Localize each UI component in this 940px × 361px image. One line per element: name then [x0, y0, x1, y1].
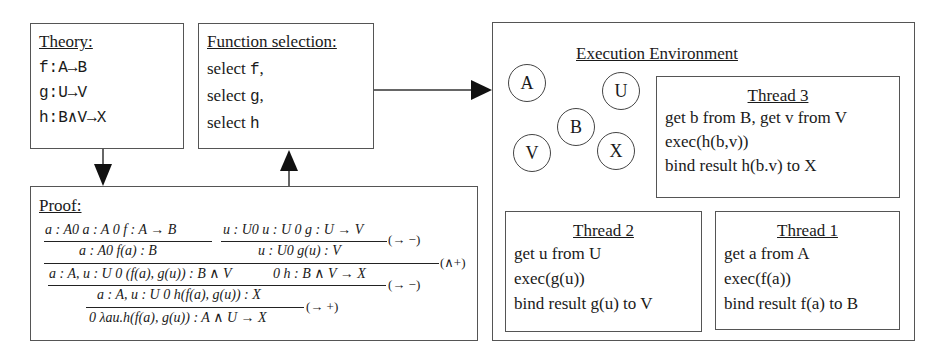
proof-bar [221, 241, 387, 242]
node-v: V [513, 134, 551, 172]
proof-title: Proof: [39, 196, 82, 216]
node-a: A [508, 64, 546, 102]
proof-step3-conclusion: a : A, u : U 0 h(f(a), g(u)) : X [97, 287, 261, 303]
thread-3-line: exec(h(b,v)) [665, 130, 899, 154]
separator: , [260, 86, 264, 105]
select-label: select [207, 113, 250, 132]
proof-bar [48, 285, 386, 286]
thread-3-box: Thread 3 get b from B, get v from V exec… [656, 76, 900, 198]
theory-line-f: f:A→B [39, 56, 183, 81]
proof-step2-conclusion-left: a : A, u : U 0 (f(a), g(u)) : B ∧ V [49, 265, 232, 282]
proof-rule-label: (∧+) [440, 255, 466, 271]
execution-environment-box: Execution Environment A U B V X Thread 3… [492, 22, 915, 341]
function-name-h: h [250, 115, 260, 133]
thread-2-line: exec(g(u)) [514, 266, 701, 291]
proof-rule-label: (→ +) [306, 299, 338, 315]
arrow-right-icon [471, 80, 492, 100]
proof-step1-right-premise: u : U0 u : U 0 g : U → V [223, 222, 363, 238]
node-u: U [602, 72, 640, 110]
function-selection-box: Function selection: select f, select g, … [198, 23, 374, 149]
proof-step1-left-premise: a : A0 a : A 0 f : A → B [45, 222, 176, 238]
theory-box: Theory: f:A→B g:U→V h:B∧V→X [30, 23, 184, 149]
thread-1-line: bind result f(a) to B [724, 291, 899, 316]
thread-1-line: get a from A [724, 241, 899, 266]
thread-2-line: bind result g(u) to V [514, 291, 701, 316]
arrow-up-icon [280, 150, 298, 171]
thread-1-box: Thread 1 get a from A exec(f(a)) bind re… [715, 211, 900, 330]
function-selection-title: Function selection: [207, 32, 373, 52]
proof-step1-left-conclusion: a : A0 f(a) : B [79, 243, 157, 259]
thread-3-line: get b from B, get v from V [665, 106, 899, 130]
theory-line-h: h:B∧V→X [39, 106, 183, 131]
proof-rule-label: (→ −) [388, 277, 420, 293]
proof-bar [86, 307, 304, 308]
execution-environment-title: Execution Environment [576, 44, 738, 64]
thread-1-line: exec(f(a)) [724, 266, 899, 291]
thread-2-box: Thread 2 get u from U exec(g(u)) bind re… [505, 211, 702, 332]
thread-3-line: bind result h(b.v) to X [665, 154, 899, 178]
separator: , [260, 59, 264, 78]
theory-line-g: g:U→V [39, 81, 183, 106]
arrow-down-icon [94, 164, 112, 186]
thread-2-line: get u from U [514, 241, 701, 266]
select-label: select [207, 59, 250, 78]
select-g-line: select g, [207, 83, 373, 110]
proof-bar [44, 263, 439, 264]
theory-title: Theory: [39, 32, 183, 52]
thread-1-title: Thread 1 [724, 221, 899, 241]
proof-step1-right-conclusion: u : U0 g(u) : V [258, 243, 341, 259]
function-name-g: g [250, 88, 260, 106]
function-name-f: f [250, 61, 260, 79]
node-b: B [557, 108, 595, 146]
select-label: select [207, 86, 250, 105]
select-f-line: select f, [207, 56, 373, 83]
proof-bar [44, 241, 212, 242]
proof-step4-conclusion: 0 λau.h(f(a), g(u)) : A ∧ U → X [89, 309, 267, 326]
select-h-line: select h [207, 110, 373, 137]
thread-2-title: Thread 2 [514, 221, 701, 241]
proof-box: Proof: a : A0 a : A 0 f : A → B a : A0 f… [30, 186, 478, 341]
thread-3-title: Thread 3 [665, 86, 899, 106]
node-x: X [597, 132, 635, 170]
proof-step2-conclusion-right: 0 h : B ∧ V → X [273, 265, 366, 282]
proof-rule-label: (→ −) [388, 232, 420, 248]
